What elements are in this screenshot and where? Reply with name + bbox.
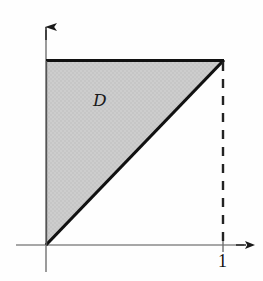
region-label-d: D <box>93 92 107 109</box>
x-axis-tick-label-one: 1 <box>218 252 227 270</box>
math-figure: D 1 <box>0 0 263 281</box>
figure-canvas <box>0 0 263 281</box>
